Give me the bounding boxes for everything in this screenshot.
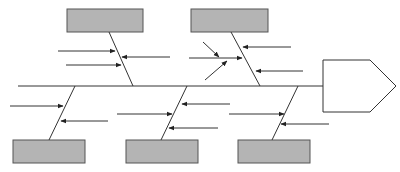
bone <box>272 86 298 140</box>
category-bottom-right <box>229 86 329 163</box>
bone <box>231 32 260 86</box>
bone <box>161 86 187 140</box>
category-box <box>13 140 85 163</box>
category-box <box>238 140 310 163</box>
category-top-left <box>58 9 170 86</box>
bone <box>109 32 133 86</box>
category-bottom-left <box>10 86 108 163</box>
category-box <box>126 140 198 163</box>
category-box <box>67 9 143 32</box>
bone <box>49 86 75 140</box>
effect-head <box>323 60 396 112</box>
sub-cause-arrow <box>205 61 227 80</box>
category-top-right <box>189 9 303 86</box>
fishbone-diagram <box>0 0 400 172</box>
category-box <box>191 9 268 32</box>
category-bottom-middle <box>117 86 230 163</box>
sub-cause-arrow <box>203 42 219 57</box>
